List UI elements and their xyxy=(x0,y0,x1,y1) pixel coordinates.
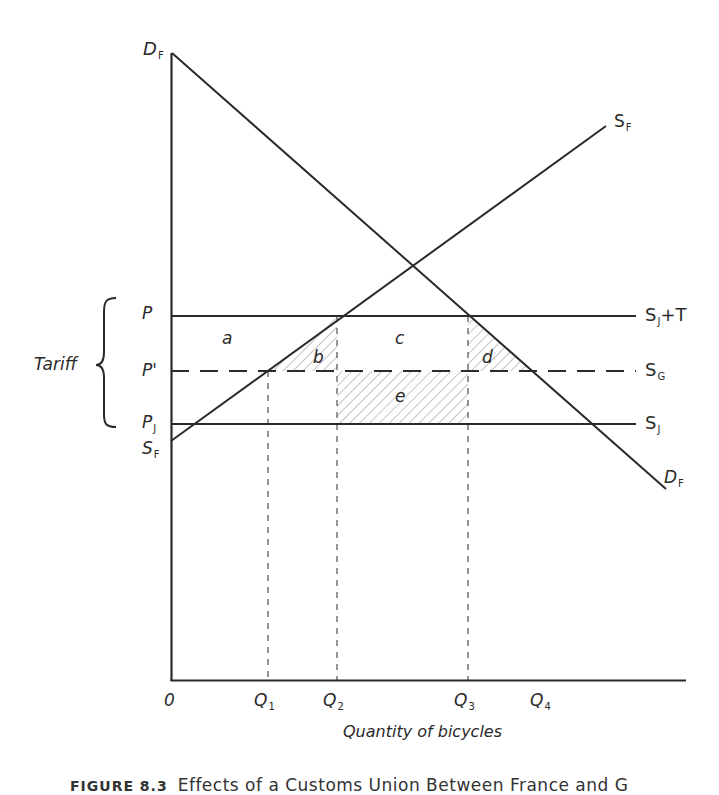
price-label-p: P xyxy=(142,305,152,322)
figure-caption: FIGURE 8.3Effects of a Customs Union Bet… xyxy=(70,775,628,795)
label-main: Q xyxy=(254,690,267,710)
label-sub: J xyxy=(153,423,156,434)
label-main: Q xyxy=(323,690,336,710)
label-sub: 2 xyxy=(337,701,343,712)
label-main: S xyxy=(142,438,153,458)
x-axis-title: Quantity of bicycles xyxy=(343,724,502,740)
label-sub: 3 xyxy=(468,701,474,712)
label-main: P xyxy=(142,303,152,323)
supply-label-top: SF xyxy=(614,113,632,133)
label-main: D xyxy=(664,467,677,487)
demand-label-top: DF xyxy=(143,40,164,61)
label-main: Q xyxy=(454,690,467,710)
region-d-label: d xyxy=(482,349,493,366)
sg-label: SG xyxy=(645,361,665,382)
price-label-p-prime: P' xyxy=(142,362,157,379)
label-sub: F xyxy=(158,50,164,61)
quantity-label-q4: Q4 xyxy=(530,692,551,712)
label-sub: F xyxy=(678,478,684,489)
figure-number: FIGURE 8.3 xyxy=(70,778,168,794)
label-main: S xyxy=(614,111,625,131)
label-sub: F xyxy=(154,449,160,460)
label-sub: F xyxy=(626,122,632,133)
label-sub: 4 xyxy=(544,701,550,712)
origin-label: 0 xyxy=(164,692,175,709)
label-sub: 1 xyxy=(268,701,274,712)
tariff-brace-icon xyxy=(96,298,116,427)
region-a-label: a xyxy=(222,330,232,347)
label-suffix: +T xyxy=(660,304,686,325)
figure-caption-text: Effects of a Customs Union Between Franc… xyxy=(178,775,629,795)
quantity-label-q1: Q1 xyxy=(254,692,275,712)
region-e-label: e xyxy=(395,388,405,405)
label-main: P' xyxy=(142,360,157,380)
label-main: S xyxy=(645,412,656,433)
sj-plus-t-label: SJ+T xyxy=(645,306,686,327)
label-sub: G xyxy=(657,371,665,382)
quantity-label-q2: Q2 xyxy=(323,692,344,712)
label-main: Q xyxy=(530,690,543,710)
demand-label-bottom: DF xyxy=(664,469,684,489)
tariff-label: Tariff xyxy=(34,356,77,373)
label-main: D xyxy=(143,38,157,59)
sj-label: SJ xyxy=(645,414,660,435)
label-main: S xyxy=(645,304,656,325)
supply-label-bottom: SF xyxy=(142,440,160,460)
region-b-label: b xyxy=(313,349,324,366)
quantity-label-q3: Q3 xyxy=(454,692,475,712)
label-sub: J xyxy=(657,424,660,435)
label-main: P xyxy=(142,412,152,432)
region-c-label: c xyxy=(395,330,404,347)
label-main: S xyxy=(645,359,656,380)
price-label-pj: PJ xyxy=(142,414,156,434)
